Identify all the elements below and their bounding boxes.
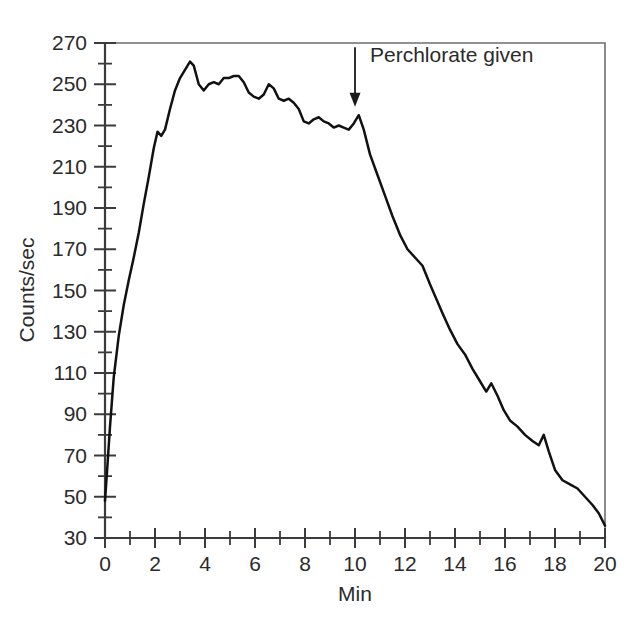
y-axis-title: Counts/sec — [15, 237, 38, 342]
x-tick-label: 12 — [393, 552, 416, 575]
y-tick-label: 210 — [52, 155, 87, 178]
annotation-arrow-head — [350, 93, 361, 107]
x-tick-label: 10 — [343, 552, 366, 575]
x-tick-label: 18 — [543, 552, 566, 575]
y-tick-label: 150 — [52, 279, 87, 302]
data-curve — [105, 62, 605, 526]
y-tick-label: 170 — [52, 237, 87, 260]
y-tick-label: 50 — [64, 485, 87, 508]
x-tick-label: 14 — [443, 552, 467, 575]
x-axis-title: Min — [338, 582, 372, 605]
axis-tick-labels: 3050709011013015017019021023025027002468… — [52, 31, 617, 575]
annotation-layer: Perchlorate given — [350, 43, 534, 106]
y-tick-label: 230 — [52, 114, 87, 137]
chart-figure: 3050709011013015017019021023025027002468… — [0, 0, 642, 618]
annotation-label: Perchlorate given — [370, 43, 533, 66]
x-tick-label: 8 — [299, 552, 311, 575]
y-tick-label: 250 — [52, 72, 87, 95]
x-tick-label: 16 — [493, 552, 516, 575]
y-tick-label: 30 — [64, 526, 87, 549]
chart-svg: 3050709011013015017019021023025027002468… — [0, 0, 642, 618]
x-tick-label: 4 — [199, 552, 211, 575]
axis-ticks — [94, 43, 605, 548]
x-tick-label: 0 — [99, 552, 111, 575]
y-tick-label: 130 — [52, 320, 87, 343]
plot-frame-top-right — [105, 43, 605, 538]
x-tick-label: 20 — [593, 552, 616, 575]
x-tick-label: 6 — [249, 552, 261, 575]
plot-frame — [105, 43, 605, 538]
data-curve-line — [105, 62, 605, 526]
y-tick-label: 90 — [64, 402, 87, 425]
y-tick-label: 110 — [54, 361, 87, 384]
plot-axes-left-bottom — [105, 43, 605, 538]
y-tick-label: 190 — [52, 196, 87, 219]
y-tick-label: 270 — [52, 31, 87, 54]
y-tick-label: 70 — [64, 444, 87, 467]
x-tick-label: 2 — [149, 552, 161, 575]
